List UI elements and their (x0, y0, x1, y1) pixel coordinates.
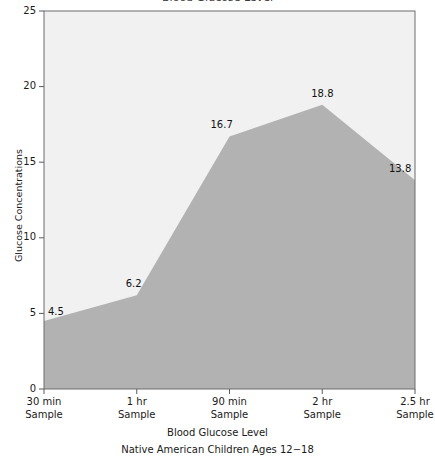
area-chart-plot (0, 0, 435, 464)
x-tick-label: 1 hrSample (92, 396, 182, 421)
x-tick-label: 2.5 hrSample (370, 396, 435, 421)
caption-line-2: Native American Children Ages 12−18 (0, 445, 435, 455)
x-tick-label-sample: Sample (185, 409, 275, 422)
x-tick-label-time: 2.5 hr (370, 396, 435, 409)
data-point-label: 13.8 (389, 164, 411, 174)
x-tick-label-time: 30 min (0, 396, 89, 409)
x-tick-label-sample: Sample (370, 409, 435, 422)
data-point-label: 4.5 (48, 307, 64, 317)
y-axis-ticks (39, 11, 44, 389)
x-tick-label-sample: Sample (277, 409, 367, 422)
y-axis-title: Glucose Concentrations (13, 126, 24, 286)
y-tick-label: 0 (8, 384, 36, 394)
data-point-label: 6.2 (126, 279, 142, 289)
y-tick-label: 5 (8, 308, 36, 318)
x-tick-label-time: 90 min (185, 396, 275, 409)
y-tick-label: 15 (8, 157, 36, 167)
y-tick-label: 25 (8, 6, 36, 16)
x-tick-label-sample: Sample (92, 409, 182, 422)
x-tick-label: 90 minSample (185, 396, 275, 421)
x-tick-label-time: 1 hr (92, 396, 182, 409)
data-point-label: 16.7 (211, 120, 233, 130)
caption-line-1: Blood Glucose Level (0, 428, 435, 438)
chart-container: Blood Glucose Level Glucose Concentratio… (0, 0, 435, 464)
x-axis-ticks (44, 389, 415, 394)
y-tick-label: 10 (8, 232, 36, 242)
data-point-label: 18.8 (311, 89, 333, 99)
y-tick-label: 20 (8, 81, 36, 91)
x-tick-label: 30 minSample (0, 396, 89, 421)
x-tick-label-time: 2 hr (277, 396, 367, 409)
x-tick-label: 2 hrSample (277, 396, 367, 421)
x-tick-label-sample: Sample (0, 409, 89, 422)
